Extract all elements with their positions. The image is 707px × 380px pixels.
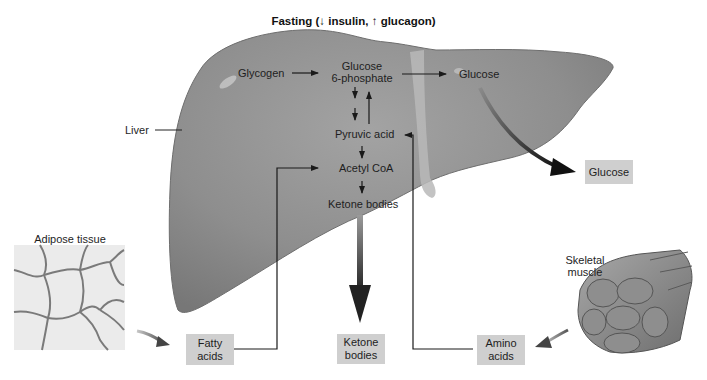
amino-acids-box: Amino acids <box>477 335 525 365</box>
skeletal-muscle-label-line2: muscle <box>560 266 610 278</box>
amino-acids-line2: acids <box>488 350 514 363</box>
amino-acids-line1: Amino <box>485 337 516 350</box>
pyruvic-acid-label: Pyruvic acid <box>335 128 394 140</box>
fatty-acids-box: Fatty acids <box>186 334 234 365</box>
adipose-tissue-label: Adipose tissue <box>20 233 120 245</box>
glycogen-label: Glycogen <box>238 67 284 79</box>
ketone-bodies-output-box: Ketone bodies <box>337 334 385 364</box>
g6p-line2: 6-phosphate <box>320 72 404 84</box>
glucose-in-liver-label: Glucose <box>459 68 499 80</box>
ketone-out-line2: bodies <box>345 349 377 362</box>
ketone-release-arrow <box>349 215 371 323</box>
g6p-line1: Glucose <box>320 60 404 72</box>
skeletal-muscle-label: Skeletal muscle <box>560 254 610 278</box>
fatty-acids-line2: acids <box>197 350 223 363</box>
glucose-6-phosphate-label: Glucose 6-phosphate <box>320 60 404 84</box>
fatty-acids-line1: Fatty <box>198 337 222 350</box>
diagram-artwork <box>0 0 707 380</box>
acetyl-coa-label: Acetyl CoA <box>339 162 393 174</box>
ketone-out-line1: Ketone <box>344 336 379 349</box>
diagram-stage: Fasting (↓ insulin, ↑ glucagon) Liver Ad… <box>0 0 707 380</box>
skeletal-muscle-label-line1: Skeletal <box>560 254 610 266</box>
diagram-title: Fasting (↓ insulin, ↑ glucagon) <box>0 15 707 27</box>
glucose-output-box: Glucose <box>585 160 633 184</box>
liver-label: Liver <box>125 124 149 136</box>
ketone-bodies-label: Ketone bodies <box>328 198 398 210</box>
adipose-tissue-illustration <box>14 245 125 350</box>
